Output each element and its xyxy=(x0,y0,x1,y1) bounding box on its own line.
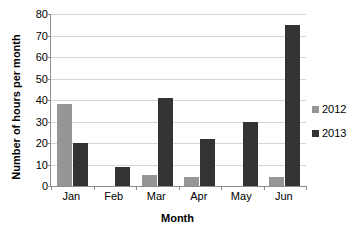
bar-group xyxy=(94,14,137,186)
bar[interactable] xyxy=(57,104,72,186)
x-axis-tick-label: Jan xyxy=(50,190,93,203)
bar-group xyxy=(136,14,179,186)
x-axis-tick-label: May xyxy=(220,190,263,203)
y-axis-tick-labels: 01020304050607080 xyxy=(22,14,48,186)
x-axis-title: Month xyxy=(50,212,305,225)
x-axis-tick-label: Apr xyxy=(178,190,221,203)
bar[interactable] xyxy=(200,139,215,186)
legend-swatch-icon xyxy=(312,106,319,113)
x-axis-tick-label: Mar xyxy=(135,190,178,203)
bar[interactable] xyxy=(243,122,258,187)
bar[interactable] xyxy=(115,167,130,186)
bar[interactable] xyxy=(73,143,88,186)
y-axis-tick-label: 70 xyxy=(36,30,48,41)
bars-layer xyxy=(51,14,306,186)
bar[interactable] xyxy=(142,175,157,186)
legend-item[interactable]: 2012 xyxy=(312,104,346,115)
y-axis-tick-label: 40 xyxy=(36,95,48,106)
y-axis-tick-label: 10 xyxy=(36,159,48,170)
y-axis-tick-label: 30 xyxy=(36,116,48,127)
y-axis-tick-label: 60 xyxy=(36,52,48,63)
x-axis-tick-mark xyxy=(306,186,307,190)
bar-group xyxy=(51,14,94,186)
legend-label: 2013 xyxy=(322,128,346,139)
plot-area xyxy=(50,14,306,187)
legend-swatch-icon xyxy=(312,130,319,137)
y-axis-tick-label: 50 xyxy=(36,73,48,84)
bar-chart: Number of hours per month 01020304050607… xyxy=(0,0,363,238)
legend: 20122013 xyxy=(312,104,346,139)
bar[interactable] xyxy=(269,177,284,186)
bar[interactable] xyxy=(184,177,199,186)
bar-group xyxy=(264,14,307,186)
bar-group xyxy=(221,14,264,186)
y-axis-tick-label: 80 xyxy=(36,9,48,20)
bar[interactable] xyxy=(158,98,173,186)
legend-label: 2012 xyxy=(322,104,346,115)
bar[interactable] xyxy=(285,25,300,186)
x-axis-tick-labels: JanFebMarAprMayJun xyxy=(50,190,305,203)
x-axis-tick-label: Jun xyxy=(263,190,306,203)
legend-item[interactable]: 2013 xyxy=(312,128,346,139)
y-axis-tick-label: 20 xyxy=(36,138,48,149)
y-axis-tick-label: 0 xyxy=(42,181,48,192)
x-axis-tick-label: Feb xyxy=(93,190,136,203)
bar-group xyxy=(179,14,222,186)
